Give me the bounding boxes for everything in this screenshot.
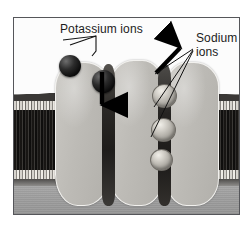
sodium-ion-top bbox=[152, 84, 177, 108]
sodium-label-line-2: ions bbox=[196, 45, 218, 59]
sodium-ion-bottom bbox=[150, 149, 173, 171]
potassium-ion-outside bbox=[59, 55, 81, 77]
sodium-ions-label: Sodium ions bbox=[196, 31, 244, 59]
potassium-ions-label: Potassium ions bbox=[60, 23, 143, 36]
membrane-ion-channel-figure: Potassium ions Sodium ions bbox=[0, 0, 251, 227]
potassium-ion-entering-channel bbox=[92, 70, 115, 93]
sodium-ion-middle bbox=[151, 118, 176, 142]
sodium-label-line-1: Sodium bbox=[196, 31, 237, 45]
